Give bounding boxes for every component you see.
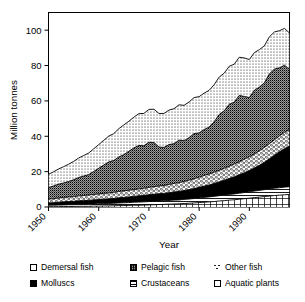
x-axis-title: Year bbox=[159, 239, 180, 250]
legend-label-other-fish: Other fish bbox=[225, 262, 262, 272]
y-axis: 020406080100 bbox=[26, 25, 49, 213]
y-tick-label: 20 bbox=[31, 166, 42, 177]
y-tick-label: 80 bbox=[31, 60, 42, 71]
legend-label-pelagic-fish: Pelagic fish bbox=[141, 262, 185, 272]
x-tick-label: 1990 bbox=[226, 211, 249, 234]
legend-item-other-fish[interactable]: Other fish bbox=[214, 262, 298, 272]
x-tick-label: 1960 bbox=[75, 211, 98, 234]
legend-item-molluscs[interactable]: Molluscs bbox=[30, 278, 130, 288]
legend-swatch-other-fish-icon bbox=[214, 264, 221, 271]
stacked-area-chart: 020406080100 19501960197019801990 Millio… bbox=[0, 0, 305, 302]
legend-item-crustaceans[interactable]: Crustaceans bbox=[130, 278, 214, 288]
y-axis-title: Million tonnes bbox=[8, 80, 19, 140]
chart-page: 020406080100 19501960197019801990 Millio… bbox=[0, 0, 305, 302]
legend-swatch-aquatic-plants-icon bbox=[214, 280, 221, 287]
x-tick-label: 1950 bbox=[25, 211, 48, 234]
legend-item-aquatic-plants[interactable]: Aquatic plants bbox=[214, 278, 279, 288]
legend-swatch-pelagic-fish-icon bbox=[130, 264, 137, 271]
legend-label-aquatic-plants: Aquatic plants bbox=[225, 278, 279, 288]
legend-item-pelagic-fish[interactable]: Pelagic fish bbox=[130, 262, 214, 272]
x-tick-label: 1970 bbox=[126, 211, 149, 234]
legend-swatch-molluscs-icon bbox=[30, 280, 37, 287]
x-axis: 19501960197019801990 bbox=[25, 207, 249, 233]
y-tick-label: 60 bbox=[31, 95, 42, 106]
x-tick-label: 1980 bbox=[176, 211, 199, 234]
legend-swatch-crustaceans-icon bbox=[130, 280, 137, 287]
chart-legend: Demersal fish Pelagic fish Other fish Mo… bbox=[30, 259, 298, 291]
y-tick-label: 40 bbox=[31, 131, 42, 142]
legend-swatch-demersal-fish-icon bbox=[30, 264, 37, 271]
legend-label-crustaceans: Crustaceans bbox=[141, 278, 189, 288]
legend-label-demersal-fish: Demersal fish bbox=[41, 262, 94, 272]
legend-item-demersal-fish[interactable]: Demersal fish bbox=[30, 262, 130, 272]
legend-label-molluscs: Molluscs bbox=[41, 278, 74, 288]
y-tick-label: 100 bbox=[26, 25, 42, 36]
